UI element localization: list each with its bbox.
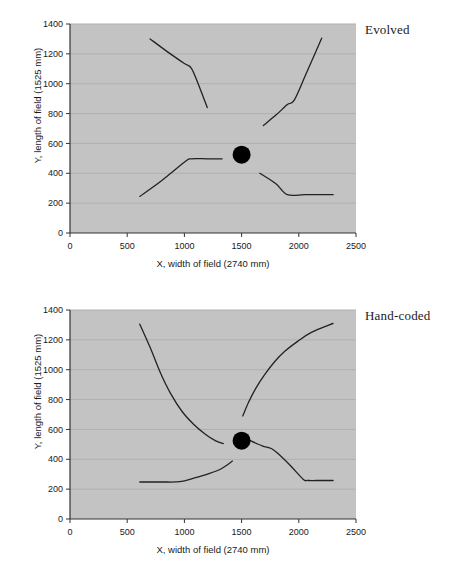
x-tick-label-2000: 2000: [289, 241, 309, 251]
plot-area-evolved: 0200400600800100012001400050010001500200…: [43, 19, 366, 251]
y-tick-label-400: 400: [48, 454, 63, 464]
y-tick-label-0: 0: [58, 514, 63, 524]
markers-group-handcoded: [233, 432, 251, 450]
plot-background: [70, 310, 356, 519]
y-tick-label-200: 200: [48, 484, 63, 494]
markers-group-evolved: [233, 146, 251, 164]
x-tick-label-1000: 1000: [174, 241, 194, 251]
y-tick-label-1000: 1000: [43, 79, 63, 89]
x-tick-label-0: 0: [67, 527, 72, 537]
plot-area-handcoded: 0200400600800100012001400050010001500200…: [43, 305, 366, 537]
y-tick-label-400: 400: [48, 168, 63, 178]
x-tick-label-2500: 2500: [346, 241, 366, 251]
chart-panel-handcoded: Hand-coded Y, length of field (1525 mm) …: [0, 286, 463, 571]
x-tick-label-0: 0: [67, 241, 72, 251]
y-tick-label-800: 800: [48, 109, 63, 119]
plot-background: [70, 24, 356, 233]
x-tick-label-2500: 2500: [346, 527, 366, 537]
ball-marker: [233, 146, 251, 164]
y-tick-label-200: 200: [48, 198, 63, 208]
x-tick-label-1500: 1500: [232, 527, 252, 537]
y-tick-label-1400: 1400: [43, 305, 63, 315]
plot-svg-handcoded: 0200400600800100012001400050010001500200…: [0, 286, 463, 571]
y-tick-label-800: 800: [48, 395, 63, 405]
y-tick-label-1200: 1200: [43, 335, 63, 345]
x-tick-label-500: 500: [120, 527, 135, 537]
y-tick-label-600: 600: [48, 139, 63, 149]
x-tick-label-500: 500: [120, 241, 135, 251]
x-tick-label-1500: 1500: [232, 241, 252, 251]
y-tick-label-1200: 1200: [43, 49, 63, 59]
y-tick-label-1000: 1000: [43, 365, 63, 375]
y-tick-label-1400: 1400: [43, 19, 63, 29]
y-tick-label-600: 600: [48, 425, 63, 435]
chart-panel-evolved: Evolved Y, length of field (1525 mm) X, …: [0, 0, 463, 285]
x-tick-label-2000: 2000: [289, 527, 309, 537]
y-tick-label-0: 0: [58, 228, 63, 238]
ball-marker: [233, 432, 251, 450]
x-tick-label-1000: 1000: [174, 527, 194, 537]
plot-svg-evolved: 0200400600800100012001400050010001500200…: [0, 0, 463, 285]
